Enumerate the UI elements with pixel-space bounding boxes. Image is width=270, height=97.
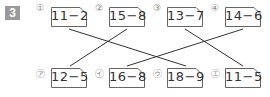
connection-line-1 <box>69 29 186 66</box>
bottom-label-1: ㋐ <box>36 69 45 79</box>
card-expression: 18−9 <box>167 69 205 84</box>
top-card-1[interactable]: 11−2 <box>51 7 87 27</box>
card-expression: 13−7 <box>167 8 205 23</box>
connection-line-3 <box>185 29 243 66</box>
card-expression: 15−8 <box>109 8 147 23</box>
top-card-3[interactable]: 13−7 <box>167 7 203 27</box>
bottom-card-3[interactable]: 18−9 <box>167 68 203 88</box>
top-card-2[interactable]: 15−8 <box>109 7 145 27</box>
top-label-4: ④ <box>211 3 219 13</box>
card-expression: 12−5 <box>51 69 89 84</box>
bottom-card-1[interactable]: 12−5 <box>51 68 87 88</box>
card-expression: 11−2 <box>51 8 89 23</box>
top-label-2: ② <box>95 3 103 13</box>
card-expression: 11−5 <box>225 69 263 84</box>
bottom-label-3: ㋒ <box>153 69 162 79</box>
top-label-1: ① <box>36 3 44 13</box>
top-label-3: ③ <box>153 3 161 13</box>
card-expression: 14−6 <box>225 8 263 23</box>
bottom-card-4[interactable]: 11−5 <box>225 68 261 88</box>
bottom-label-4: ㋓ <box>211 69 220 79</box>
card-expression: 16−8 <box>109 69 147 84</box>
top-card-4[interactable]: 14−6 <box>225 7 261 27</box>
bottom-label-2: ㋑ <box>95 69 104 79</box>
connection-line-2 <box>70 29 127 66</box>
bottom-card-2[interactable]: 16−8 <box>109 68 145 88</box>
connection-line-4 <box>127 29 243 66</box>
